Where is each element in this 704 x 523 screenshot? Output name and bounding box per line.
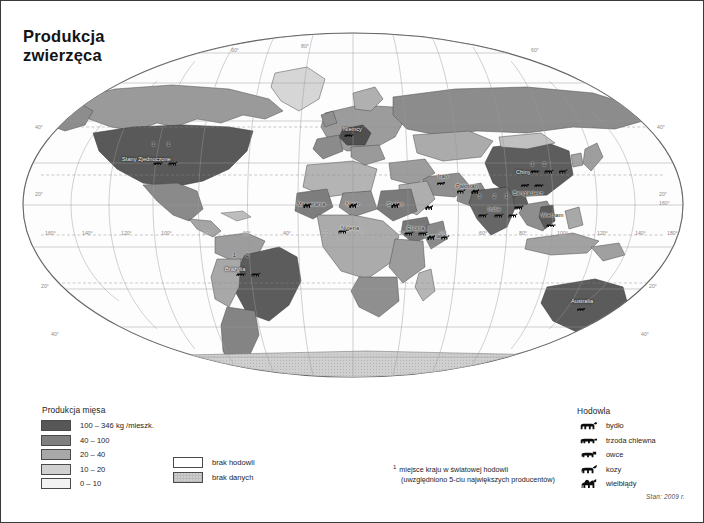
legend-extra-item[interactable]: brak danych	[173, 471, 255, 484]
legend-meat-label: 0 – 10	[80, 479, 101, 488]
page-title: Produkcja zwierzęca	[23, 27, 213, 66]
cattle-icon	[493, 205, 504, 223]
legend-meat-rows: 100 – 346 kg /mieszk.40 – 10020 – 4010 –…	[41, 419, 154, 490]
graticule-label: 20°	[35, 191, 43, 197]
country-korea	[571, 153, 583, 167]
graticule-label: 160°	[45, 230, 56, 236]
camel-icon	[577, 477, 599, 490]
legend-meat-item[interactable]: 20 – 40	[41, 448, 154, 461]
legend-note-line1: miejsce kraju w światowej hodowli	[399, 465, 508, 474]
cattle-icon	[337, 221, 348, 239]
legend-livestock-rows: bydłotrzoda chlewnaowcekozywielbłądy	[577, 419, 656, 491]
legend-livestock-item[interactable]: bydło	[577, 419, 656, 433]
legend-livestock-item[interactable]: owce	[577, 448, 656, 462]
pig-icon	[343, 125, 354, 143]
cattle-icon	[403, 223, 414, 241]
rank-marker: 1	[233, 252, 236, 258]
graticule-label: 20°	[659, 191, 667, 197]
legend-livestock-label: wielbłądy	[606, 479, 636, 488]
graticule-label: 0°	[361, 230, 366, 236]
legend-meat-item[interactable]: 100 – 346 kg /mieszk.	[41, 419, 154, 432]
legend-meat-item[interactable]: 10 – 20	[41, 463, 154, 476]
graticule-label: 140°	[635, 230, 646, 236]
page-title-line1: Produkcja	[23, 27, 105, 45]
legend-meat-item[interactable]: 40 – 100	[41, 434, 154, 447]
graticule-label: 80°	[301, 43, 309, 49]
legend-livestock-label: owce	[606, 450, 623, 459]
world-map[interactable]: 160°140°120°100°80°60°40°20°0°20°40°60°8…	[7, 15, 699, 395]
legend-livestock-item[interactable]: kozy	[577, 463, 656, 477]
graticule-label: 80°	[519, 230, 527, 236]
graticule-label: 60°	[531, 47, 539, 53]
rank-marker: 2	[543, 161, 546, 167]
legend-extra-swatch	[173, 457, 203, 468]
graticule-label: 180°	[667, 230, 678, 236]
graticule-label: 20°	[41, 283, 49, 289]
rank-marker: 2	[246, 252, 249, 258]
legend-meat-swatch	[41, 464, 71, 475]
pig-icon	[533, 175, 544, 193]
graticule-label: 40°	[51, 331, 59, 337]
legend-meat-swatch	[41, 478, 71, 489]
legend-extra-label: brak danych	[212, 473, 253, 482]
graticule-label: 140°	[82, 230, 93, 236]
graticule-label: 160°	[659, 200, 670, 206]
legend-meat-production: Produkcja mięsa 100 – 346 kg /mieszk.40 …	[41, 405, 154, 492]
graticule-label: 60°	[479, 230, 487, 236]
cattle-icon	[577, 419, 599, 432]
legend-livestock-title: Hodowla	[577, 406, 656, 416]
page-title-line2: zwierzęca	[23, 46, 213, 65]
camel-icon	[425, 227, 436, 245]
legend-livestock-item[interactable]: wielbłądy	[577, 477, 656, 491]
graticule-label: 80°	[203, 230, 211, 236]
legend-note-superscript: 1	[393, 464, 396, 470]
graticule-label: 40°	[657, 124, 665, 130]
pig-icon	[577, 434, 599, 447]
legend-extra-item[interactable]: brak hodowli	[173, 456, 255, 469]
legend-meat-swatch	[41, 449, 71, 460]
rank-marker: 1	[505, 193, 508, 199]
legend-livestock-label: kozy	[606, 465, 621, 474]
cattle-icon	[513, 197, 524, 215]
legend-rank-note: 1miejsce kraju w światowej hodowli (uwzg…	[393, 463, 555, 485]
legend-meat-title: Produkcja mięsa	[41, 405, 154, 415]
legend-meat-swatch	[41, 435, 71, 446]
legend-livestock-label: trzoda chlewna	[606, 436, 656, 445]
rank-marker: 2	[493, 193, 496, 199]
sheep-icon	[519, 175, 530, 193]
map-page: Produkcja zwierzęca	[0, 0, 704, 523]
sheep-icon	[575, 299, 586, 317]
pig-icon	[152, 153, 163, 171]
sheep-icon	[435, 173, 446, 191]
legend-note-line2: (uwzględniono 5-ciu największych produce…	[393, 475, 555, 485]
graticule-label: 40°	[641, 331, 649, 337]
camel-icon	[347, 195, 358, 213]
legend-meat-label: 100 – 346 kg /mieszk.	[80, 421, 154, 430]
legend-livestock: Hodowla bydłotrzoda chlewnaowcekozywielb…	[577, 406, 656, 492]
legend-meat-item[interactable]: 0 – 10	[41, 477, 154, 490]
pig-icon	[545, 215, 556, 233]
graticule-label: 20°	[323, 230, 331, 236]
legend-extra-classes: brak hodowlibrak danych	[173, 456, 255, 485]
graticule-label: 120°	[597, 230, 608, 236]
legend-extra-swatch	[173, 472, 203, 483]
legend-meat-label: 10 – 20	[80, 465, 105, 474]
cattle-icon	[167, 153, 178, 171]
graticule-label: 60°	[231, 47, 239, 53]
legend-meat-label: 20 – 40	[80, 450, 105, 459]
goat-icon	[439, 227, 450, 245]
rank-marker: 1	[152, 141, 155, 147]
rank-marker: 1	[167, 141, 170, 147]
cattle-icon	[477, 205, 488, 223]
pig-icon	[235, 264, 246, 282]
graticule-label: 40°	[35, 124, 43, 130]
graticule-label: 60°	[243, 230, 251, 236]
rank-marker: 1	[531, 161, 534, 167]
graticule-label: 120°	[121, 230, 132, 236]
legend-livestock-item[interactable]: trzoda chlewna	[577, 434, 656, 448]
camel-icon	[389, 195, 400, 213]
country-label[interactable]: Stany Zjednoczone	[122, 156, 171, 162]
cattle-icon	[250, 264, 261, 282]
sheep-icon	[577, 448, 599, 461]
rank-marker: 3	[478, 193, 481, 199]
